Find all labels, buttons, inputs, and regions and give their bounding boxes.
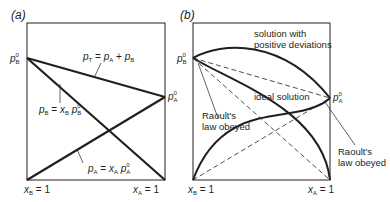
panel-a: (a) pB0 pA0 pT = pA + pB pB = xB pB0 p: [9, 8, 178, 196]
positive-deviations-label-line2: positive deviations: [254, 39, 332, 50]
panel-a-pb0-label: pB0: [9, 52, 20, 65]
panel-a-frame: [27, 23, 165, 180]
panel-a-label: (a): [11, 8, 26, 22]
raoult-right-label-line2: law obeyed: [338, 157, 386, 168]
raoult-right-label-line1: Raoult's: [338, 146, 372, 157]
pa-equation: pA = xA pA0: [87, 162, 130, 175]
raoult-left-label-line1: Raoult's: [202, 110, 236, 121]
pa-leader-line: [77, 149, 83, 163]
vapor-pressure-diagram: (a) pB0 pA0 pT = pA + pB pB = xB pB0 p: [0, 0, 390, 202]
panel-a-xb-label: xB = 1: [23, 184, 50, 196]
panel-a-xa-label: xA = 1: [132, 184, 159, 196]
pb-partial-pressure-line: [27, 58, 165, 180]
panel-b-xa-label: xA = 1: [307, 184, 334, 196]
panel-a-pa0-label: pA0: [167, 90, 178, 103]
raoult-left-label-line2: law obeyed: [202, 121, 250, 132]
panel-b-xb-label: xB = 1: [187, 184, 214, 196]
panel-b-pa0-label: pA0: [332, 91, 343, 104]
pb-equation: pB = xB pB0: [38, 103, 81, 116]
panel-b-pb0-label: pB0: [176, 52, 187, 65]
ideal-solution-label: ideal solution: [254, 91, 309, 102]
total-pressure-equation: pT = pA + pB: [82, 51, 134, 63]
positive-deviations-label-line1: solution with: [254, 28, 306, 39]
panel-b: (b) pB0 pA0 solution with positive devia…: [176, 8, 386, 196]
total-leader-line: [94, 63, 101, 78]
panel-b-label: (b): [180, 8, 195, 22]
